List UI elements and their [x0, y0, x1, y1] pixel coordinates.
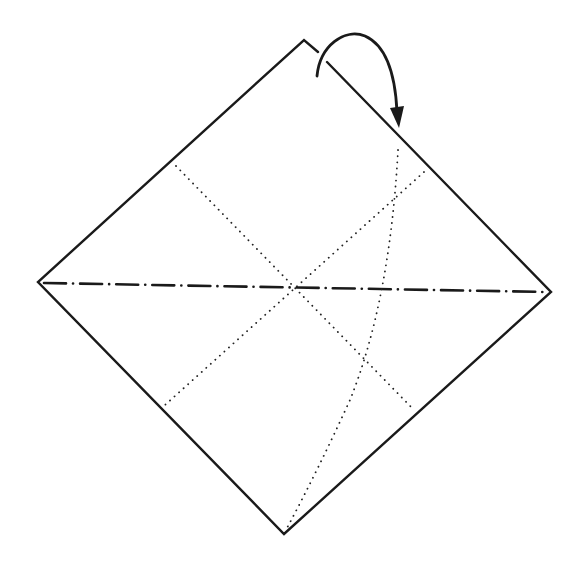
curved-guide-line — [287, 150, 398, 528]
origami-diagram — [0, 0, 586, 565]
paper-edge-left — [38, 40, 551, 534]
paper-outline — [38, 40, 551, 534]
fold-arrow-icon — [317, 34, 404, 128]
